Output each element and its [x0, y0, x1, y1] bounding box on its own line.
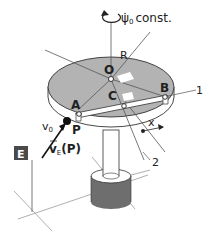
point-c-label: C: [108, 89, 117, 103]
callout-2: 2: [152, 156, 159, 169]
rotation-label: ψ̇0const.: [121, 11, 172, 26]
frame-label: E: [17, 148, 25, 161]
point-c: [122, 104, 127, 109]
rotating-disk-diagram: E 1 x: [0, 0, 212, 245]
callout-2-leader: [143, 152, 150, 160]
radius-label: R: [120, 49, 128, 62]
point-a: [77, 112, 82, 117]
point-p-label: P: [72, 123, 81, 137]
point-a-label: A: [71, 98, 81, 112]
point-o: [109, 77, 114, 82]
shaft: [103, 130, 119, 179]
point-b: [163, 95, 168, 100]
ve-label: vE(P): [49, 142, 81, 157]
velocity-label: v0: [42, 120, 53, 134]
center-label: O: [104, 63, 114, 77]
offset-label: x: [148, 116, 155, 129]
callout-1: 1: [196, 84, 203, 97]
point-p: [63, 117, 71, 125]
point-b-label: B: [160, 81, 169, 95]
arrow-head-icon: [158, 124, 164, 130]
arrow-head-icon: [101, 10, 109, 16]
